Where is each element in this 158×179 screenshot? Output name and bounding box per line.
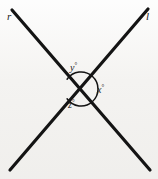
diagram-canvas [0, 0, 158, 179]
geometry-figure: r l y° x° z° [0, 0, 158, 179]
line-label-l: l [146, 11, 149, 22]
degree-symbol-z: ° [72, 98, 75, 106]
degree-symbol-y: ° [74, 61, 77, 69]
angle-label-z: z° [68, 99, 75, 110]
degree-symbol-x: ° [101, 83, 104, 91]
line-r [12, 10, 150, 170]
angle-label-y: y° [70, 62, 77, 73]
angle-label-x: x° [97, 84, 104, 95]
line-label-r: r [7, 11, 11, 22]
